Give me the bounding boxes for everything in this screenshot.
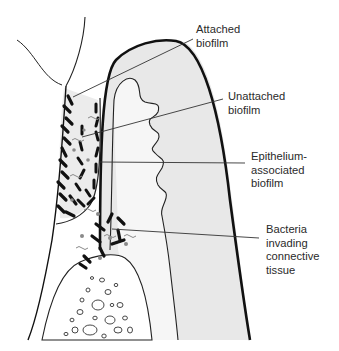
label-epithelium-associated-biofilm: Epithelium- associated biofilm <box>251 150 307 191</box>
label-line: Epithelium- <box>251 150 307 164</box>
tooth-crown-edge <box>66 17 85 86</box>
label-line: invading <box>266 237 320 251</box>
label-line: associated <box>251 164 307 178</box>
label-line: biofilm <box>251 177 307 191</box>
periodontal-biofilm-diagram: Attached biofilm Unattached biofilm Epit… <box>0 0 339 351</box>
label-line: biofilm <box>196 37 240 51</box>
label-attached-biofilm: Attached biofilm <box>196 23 240 50</box>
label-line: Attached <box>196 23 240 37</box>
label-line: connective <box>266 250 320 264</box>
label-line: tissue <box>266 264 320 278</box>
gum-margin <box>17 40 62 85</box>
label-line: biofilm <box>228 104 285 118</box>
label-line: Unattached <box>228 90 285 104</box>
label-unattached-biofilm: Unattached biofilm <box>228 90 285 117</box>
label-line: Bacteria <box>266 223 320 237</box>
label-bacteria-invading-connective-tissue: Bacteria invading connective tissue <box>266 223 320 277</box>
